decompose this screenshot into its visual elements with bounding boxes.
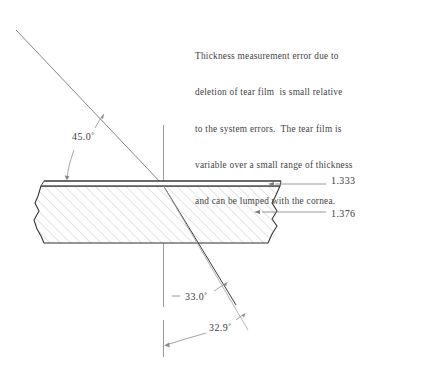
note-line-2: deletion of tear film is small relative [195,86,410,98]
leader-329-axis-arrowhead [164,343,170,348]
refractive-index-tear-film-label: 1.333 [331,175,356,186]
leader-45-to-surface [67,150,74,179]
refractive-index-cornea-label: 1.376 [331,208,356,219]
refracted-angle-cornea-label: 32.9˚ [209,322,232,333]
incident-ray [16,30,163,185]
diagram-canvas: Thickness measurement error due to delet… [0,0,434,379]
note-line-5: and can be lumped with the cornea. [195,195,410,207]
leader-45-surface-arrowhead [65,176,70,181]
note-line-1: Thickness measurement error due to [195,50,410,62]
leader-329-to-axis [166,333,206,345]
incident-angle-label: 45.0˚ [72,131,95,142]
note-line-4: variable over a small range of thickness [195,159,410,171]
note-line-3: to the system errors. The tear film is [195,123,410,135]
refracted-angle-tear-label: 33.0˚ [185,291,208,302]
explanatory-note: Thickness measurement error due to delet… [195,26,410,232]
